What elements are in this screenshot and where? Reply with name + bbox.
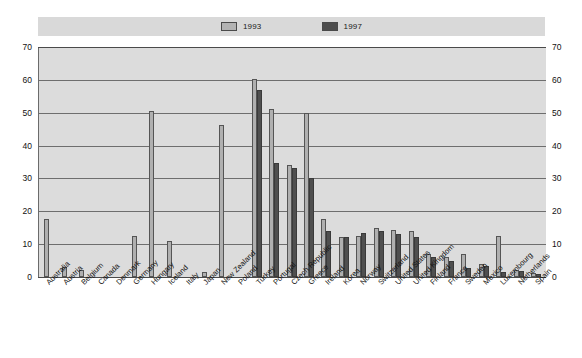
y-tick-label-left: 10 bbox=[6, 240, 32, 249]
bar-1993[interactable] bbox=[219, 125, 224, 277]
bar-group[interactable] bbox=[248, 47, 265, 277]
y-tick-label-right: 10 bbox=[552, 240, 561, 249]
y-tick-label-right: 30 bbox=[552, 174, 561, 183]
bar-1997[interactable] bbox=[361, 233, 366, 277]
legend-swatch-1993 bbox=[221, 22, 237, 31]
bar-group[interactable] bbox=[108, 47, 125, 277]
y-tick-label-right: 50 bbox=[552, 109, 561, 118]
y-tick-label-left: 0 bbox=[6, 273, 32, 282]
y-tick-label-right: 40 bbox=[552, 142, 561, 151]
y-tick-label-right: 70 bbox=[552, 43, 561, 52]
bar-group[interactable] bbox=[230, 47, 247, 277]
bar-group[interactable] bbox=[458, 47, 475, 277]
bar-group[interactable] bbox=[178, 47, 195, 277]
legend-item-1993: 1993 bbox=[221, 22, 262, 31]
bar-group[interactable] bbox=[423, 47, 440, 277]
bar-group[interactable] bbox=[283, 47, 300, 277]
bar-group[interactable] bbox=[300, 47, 317, 277]
y-tick-label-right: 0 bbox=[552, 273, 557, 282]
bar-group[interactable] bbox=[38, 47, 55, 277]
bar-group[interactable] bbox=[90, 47, 107, 277]
bar-chart: 1993 1997 010203040506070 01020304050607… bbox=[0, 0, 582, 358]
bar-group[interactable] bbox=[510, 47, 527, 277]
bar-series-container bbox=[38, 47, 545, 277]
bar-group[interactable] bbox=[405, 47, 422, 277]
legend-label-1993: 1993 bbox=[243, 22, 262, 31]
bar-1997[interactable] bbox=[274, 163, 279, 277]
bar-group[interactable] bbox=[528, 47, 545, 277]
bar-group[interactable] bbox=[493, 47, 510, 277]
x-axis-labels: AustraliaAustriaBelgiumCanadaDenmarkGerm… bbox=[38, 279, 545, 358]
bar-group[interactable] bbox=[73, 47, 90, 277]
bar-1993[interactable] bbox=[44, 219, 49, 277]
y-tick-label-right: 60 bbox=[552, 76, 561, 85]
y-tick-label-left: 20 bbox=[6, 207, 32, 216]
bar-group[interactable] bbox=[353, 47, 370, 277]
bar-group[interactable] bbox=[160, 47, 177, 277]
y-tick-label-left: 40 bbox=[6, 142, 32, 151]
legend-swatch-1997 bbox=[322, 22, 338, 31]
bar-group[interactable] bbox=[388, 47, 405, 277]
y-tick-label-right: 20 bbox=[552, 207, 561, 216]
y-tick-label-left: 50 bbox=[6, 109, 32, 118]
legend-item-1997: 1997 bbox=[322, 22, 363, 31]
legend-label-1997: 1997 bbox=[344, 22, 363, 31]
bar-group[interactable] bbox=[195, 47, 212, 277]
bar-1993[interactable] bbox=[149, 111, 154, 277]
bar-1997[interactable] bbox=[257, 90, 262, 277]
bar-group[interactable] bbox=[335, 47, 352, 277]
bar-group[interactable] bbox=[265, 47, 282, 277]
y-tick-label-left: 70 bbox=[6, 43, 32, 52]
bar-group[interactable] bbox=[475, 47, 492, 277]
bar-group[interactable] bbox=[370, 47, 387, 277]
y-tick-label-left: 60 bbox=[6, 76, 32, 85]
bar-group[interactable] bbox=[55, 47, 72, 277]
bar-group[interactable] bbox=[125, 47, 142, 277]
y-tick-label-left: 30 bbox=[6, 174, 32, 183]
bar-group[interactable] bbox=[213, 47, 230, 277]
bar-group[interactable] bbox=[143, 47, 160, 277]
chart-legend: 1993 1997 bbox=[38, 17, 545, 36]
